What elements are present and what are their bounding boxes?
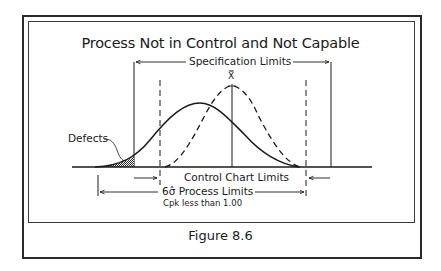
control-chart-limits-label: Control Chart Limits	[184, 171, 289, 183]
specification-limits-label: Specification Limits	[187, 55, 293, 67]
figure-caption: Figure 8.6	[0, 228, 441, 243]
cpk-note: Cpk less than 1.00	[163, 198, 242, 208]
process-limits-label: 6σ̂ Process Limits	[160, 185, 255, 197]
xbar-symbol: X̿	[228, 71, 234, 81]
defects-label: Defects	[68, 132, 108, 144]
